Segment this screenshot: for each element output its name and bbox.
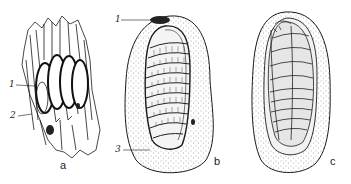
callout-label-1: 1 [115,15,121,24]
callout-label-1: 1 [9,80,15,89]
dark-patch [150,16,170,24]
callout-label-3: 3 [115,145,121,154]
scientific-figure: 1 2 a [0,0,351,184]
panel-a: 1 2 a [0,0,115,184]
panel-b: 1 3 b [110,0,240,184]
panel-label-b: b [214,156,220,167]
callout-label-2: 2 [10,111,16,120]
panel-label-c: c [330,156,336,167]
panel-b-drawing [110,0,240,184]
panel-c: c [235,0,351,184]
callout-1-leader [16,85,35,86]
panel-label-a: a [60,160,66,171]
callout-2-leader [18,114,32,116]
panel-a-drawing [0,0,115,184]
